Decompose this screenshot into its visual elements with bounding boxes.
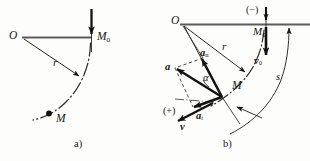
panel-a-label-O: O bbox=[9, 30, 17, 42]
panel-b-label-M0-subscript: 0 bbox=[262, 31, 265, 38]
panel-b-lower-arc-arrow bbox=[237, 107, 262, 118]
panel-b-label-an: an bbox=[200, 48, 209, 59]
panel-b-label-an-subscript: n bbox=[205, 51, 208, 58]
panel-b-dashed-construction-top bbox=[175, 58, 203, 68]
figure-vector-graphics bbox=[0, 0, 310, 161]
panel-b-label-O: O bbox=[171, 15, 179, 27]
panel-b-label-negative-sign: (−) bbox=[246, 5, 258, 15]
panel-b-label-at: at bbox=[196, 111, 203, 122]
panel-b-label-v: v bbox=[180, 122, 185, 133]
panel-b-label-v0-subscript: 0 bbox=[259, 59, 262, 66]
panel-b-label-a: a bbox=[165, 62, 170, 73]
panel-b-normal-axis bbox=[222, 97, 240, 124]
panel-b-label-M0: M0 bbox=[253, 26, 266, 38]
panel-a-label-r: r bbox=[53, 57, 57, 68]
panel-b-radius-line-r bbox=[184, 26, 245, 72]
panel-a-label-M0-letter: M bbox=[97, 30, 107, 42]
panel-b-label-M0-letter: M bbox=[253, 25, 262, 37]
panel-a-label-M: M bbox=[56, 113, 66, 125]
panel-a-trajectory bbox=[33, 43, 91, 120]
panel-a-label-M0-subscript: 0 bbox=[107, 36, 111, 44]
panel-b-label-alpha: α bbox=[203, 73, 209, 84]
panel-b-label-r: r bbox=[222, 41, 226, 52]
panel-b-label-positive-sign: (+) bbox=[163, 106, 175, 116]
panel-b-label-v0: v0 bbox=[254, 56, 262, 67]
panel-b-label-M: M bbox=[232, 80, 242, 92]
panel-a-point-marker bbox=[46, 111, 52, 117]
panel-a-label-M0: M0 bbox=[97, 31, 110, 44]
panel-a-caption: a) bbox=[74, 139, 82, 150]
panel-b-label-at-subscript: t bbox=[201, 114, 203, 121]
panel-b-caption: b) bbox=[223, 139, 232, 150]
figure-root: O r M0 M a) O (−) M0 r v0 s an a α M (+)… bbox=[0, 0, 310, 161]
panel-a-radius-line bbox=[24, 39, 79, 76]
panel-b-label-s: s bbox=[276, 72, 280, 83]
